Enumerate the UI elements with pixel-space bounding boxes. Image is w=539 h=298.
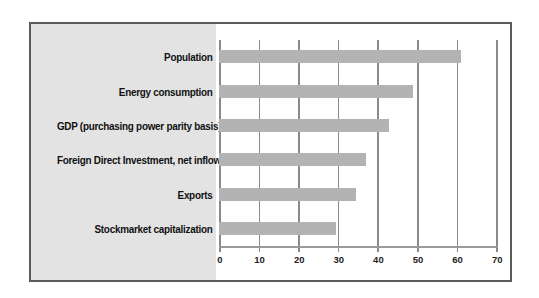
x-tick-label: 20 <box>284 254 314 265</box>
gridline-10 <box>259 40 261 252</box>
gridline-60 <box>457 40 459 252</box>
x-tick-label: 10 <box>245 254 275 265</box>
gridline-40 <box>377 40 379 252</box>
x-tick-label: 70 <box>482 254 512 265</box>
gridline-70 <box>496 40 498 252</box>
x-tick-label: 40 <box>363 254 393 265</box>
x-tick-label: 0 <box>205 254 235 265</box>
gridline-50 <box>417 40 419 252</box>
bar-2 <box>219 119 389 132</box>
x-axis-line <box>219 246 497 248</box>
plot-area: 010203040506070 <box>31 24 510 280</box>
bar-1 <box>219 85 413 98</box>
x-tick-label: 30 <box>324 254 354 265</box>
gridline-0 <box>219 40 221 252</box>
chart-frame: Population Energy consumption GDP (purch… <box>29 22 512 282</box>
bar-4 <box>219 188 356 201</box>
bar-5 <box>219 222 336 235</box>
bar-3 <box>219 153 366 166</box>
x-tick-label: 50 <box>403 254 433 265</box>
bar-0 <box>219 50 461 63</box>
gridline-30 <box>338 40 340 252</box>
x-tick-label: 60 <box>443 254 473 265</box>
gridline-20 <box>298 40 300 252</box>
